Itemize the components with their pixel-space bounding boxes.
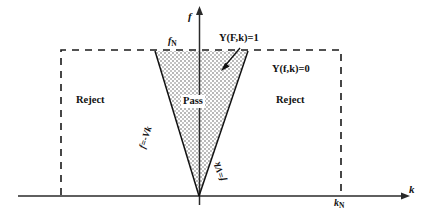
f-axis-arrowhead	[196, 6, 203, 15]
reject-region-right-label: Reject	[276, 95, 305, 106]
f-axis-label: f	[188, 11, 192, 22]
k-nyquist-label: kN	[334, 198, 344, 208]
reject-response-label: Y(f,k)=0	[272, 64, 310, 75]
k-axis-label: k	[409, 184, 415, 195]
pass-region-label: Pass	[181, 95, 205, 108]
f-nyquist-subscript: N	[171, 39, 176, 48]
pass-response-label: Y(F,k)=1	[219, 33, 259, 44]
reject-region-left-label: Reject	[76, 95, 105, 106]
fan-filter-diagram: f k fN kN Y(F,k)=1 Y(f,k)=0 Pass Reject …	[0, 0, 422, 214]
k-nyquist-subscript: N	[339, 201, 344, 210]
f-nyquist-label: fN	[168, 36, 177, 46]
diagram-canvas	[0, 0, 422, 214]
pass-region-shading	[155, 51, 248, 196]
